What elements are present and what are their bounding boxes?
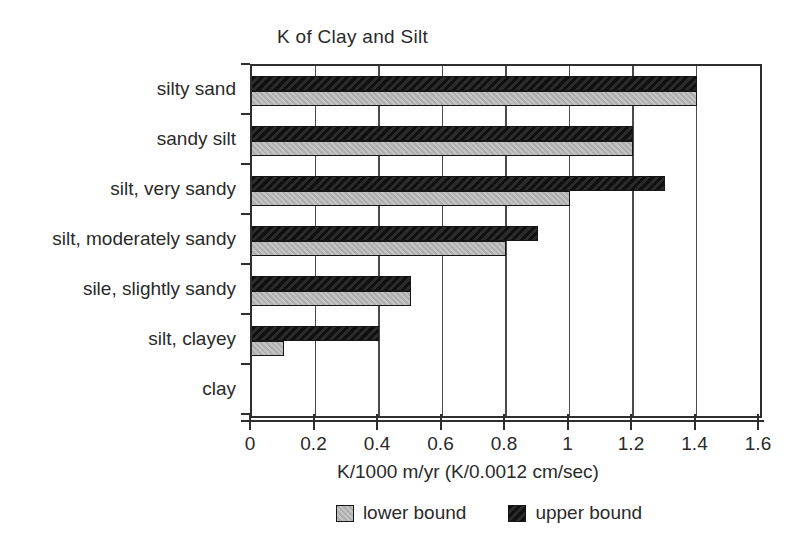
category-label: silt, very sandy	[0, 178, 236, 200]
category-label: clay	[0, 378, 236, 400]
x-tick	[249, 414, 251, 430]
y-tick	[241, 63, 250, 65]
gridline	[696, 66, 698, 416]
bar-lower-bound	[252, 141, 633, 156]
x-tick	[630, 414, 632, 430]
x-tick-label: 0.4	[353, 433, 401, 455]
gridline	[632, 66, 634, 416]
bar-upper-bound	[252, 226, 538, 241]
bar-lower-bound	[252, 191, 570, 206]
x-tick-label: 1.2	[607, 433, 655, 455]
category-label: silt, moderately sandy	[0, 228, 236, 250]
bar-upper-bound	[252, 326, 379, 341]
y-tick	[241, 263, 250, 265]
y-tick	[241, 113, 250, 115]
chart-figure: K of Clay and Silt silty sandsandy silts…	[0, 0, 808, 557]
category-label: silty sand	[0, 78, 236, 100]
x-tick	[440, 414, 442, 430]
x-tick-label: 1.6	[734, 433, 782, 455]
x-tick	[376, 414, 378, 430]
x-tick	[694, 414, 696, 430]
x-tick	[567, 414, 569, 430]
legend-item-lower-bound: lower bound	[336, 502, 467, 524]
y-tick	[241, 163, 250, 165]
y-tick	[241, 363, 250, 365]
legend-label: lower bound	[363, 502, 467, 524]
legend-label: upper bound	[535, 502, 642, 524]
x-tick-label: 1	[544, 433, 592, 455]
chart-title: K of Clay and Silt	[277, 26, 428, 48]
legend-swatch-lower-bound	[336, 505, 354, 522]
gridline	[569, 66, 571, 416]
bar-upper-bound	[252, 126, 633, 141]
bar-lower-bound	[252, 241, 506, 256]
bar-lower-bound	[252, 341, 284, 356]
legend-swatch-upper-bound	[508, 505, 526, 522]
x-tick-label: 1.4	[671, 433, 719, 455]
bar-lower-bound	[252, 91, 697, 106]
x-tick-label: 0.2	[290, 433, 338, 455]
x-tick-label: 0	[226, 433, 274, 455]
x-tick-label: 0.8	[480, 433, 528, 455]
category-label: silt, clayey	[0, 328, 236, 350]
category-label: sile, slightly sandy	[0, 278, 236, 300]
plot-area	[250, 64, 762, 418]
bar-lower-bound	[252, 291, 411, 306]
bar-upper-bound	[252, 76, 697, 91]
y-tick	[241, 213, 250, 215]
legend: lower boundupper bound	[185, 502, 793, 524]
y-tick	[241, 313, 250, 315]
category-label: sandy silt	[0, 128, 236, 150]
x-axis-title: K/1000 m/yr (K/0.0012 cm/sec)	[160, 461, 776, 483]
x-tick	[313, 414, 315, 430]
bar-upper-bound	[252, 276, 411, 291]
x-tick-label: 0.6	[417, 433, 465, 455]
bar-upper-bound	[252, 176, 665, 191]
legend-item-upper-bound: upper bound	[508, 502, 642, 524]
x-tick	[757, 414, 759, 430]
x-tick	[503, 414, 505, 430]
